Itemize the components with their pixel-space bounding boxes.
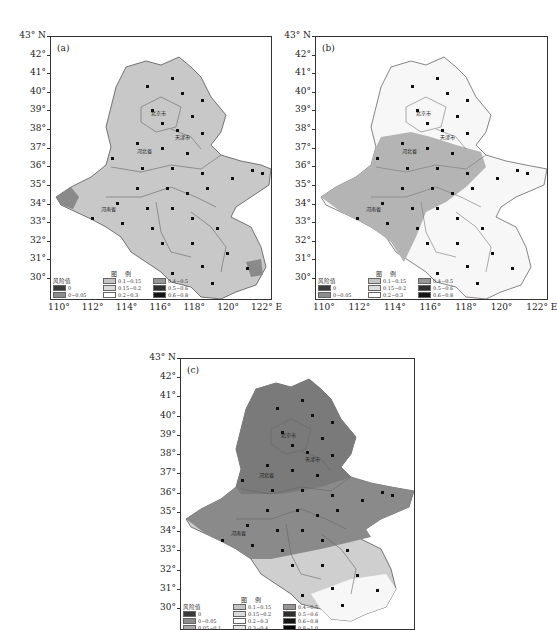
y-tick bbox=[47, 204, 51, 205]
station-marker bbox=[331, 587, 334, 590]
station-marker bbox=[511, 267, 514, 270]
legend-item: 0.3~0.4 bbox=[368, 298, 403, 300]
label-henan: 河南省 bbox=[101, 205, 116, 212]
legend-item: 0.6~0.8 bbox=[153, 291, 188, 298]
y-tick bbox=[47, 222, 51, 223]
station-marker bbox=[281, 549, 284, 552]
y-tick bbox=[177, 473, 181, 474]
legend-label: 0.3~0.4 bbox=[248, 625, 268, 630]
station-marker bbox=[171, 167, 174, 170]
legend-swatch bbox=[318, 285, 331, 291]
station-marker bbox=[246, 524, 249, 527]
station-marker bbox=[466, 132, 469, 135]
station-marker bbox=[491, 252, 494, 255]
y-tick bbox=[312, 278, 316, 279]
station-marker bbox=[466, 172, 469, 175]
station-marker bbox=[356, 574, 359, 577]
station-marker bbox=[161, 242, 164, 245]
label-hebei: 河北省 bbox=[137, 147, 152, 154]
legend-label: 0.4~0.5 bbox=[433, 278, 453, 284]
y-tick-label: 39° bbox=[277, 104, 311, 114]
legend-swatch bbox=[153, 299, 166, 301]
station-marker bbox=[436, 167, 439, 170]
legend-swatch bbox=[53, 299, 66, 301]
station-marker bbox=[266, 509, 269, 512]
y-tick-label: 32° bbox=[142, 564, 176, 574]
legend-swatch bbox=[53, 285, 66, 291]
y-tick-label: 33° bbox=[12, 216, 46, 226]
y-tick bbox=[177, 416, 181, 417]
station-marker bbox=[201, 132, 204, 135]
panel-label-b: (b) bbox=[322, 43, 335, 53]
legend-item: 0 bbox=[183, 610, 201, 617]
legend-label: 0.4~0.5 bbox=[298, 604, 318, 610]
y-tick bbox=[312, 204, 316, 205]
x-tick-label: 110° bbox=[48, 302, 70, 312]
station-marker bbox=[481, 227, 484, 230]
station-marker bbox=[331, 494, 334, 497]
station-marker bbox=[171, 272, 174, 275]
station-marker bbox=[271, 489, 274, 492]
station-marker bbox=[496, 177, 499, 180]
legend-label: 0.6~0.8 bbox=[433, 292, 453, 298]
station-marker bbox=[251, 169, 254, 172]
legend-swatch bbox=[183, 625, 196, 630]
station-marker bbox=[186, 152, 189, 155]
label-tianjin: 天津市 bbox=[440, 133, 455, 140]
station-marker bbox=[436, 207, 439, 210]
y-tick bbox=[177, 358, 181, 359]
legend-label: 0.8~1.0 bbox=[168, 299, 188, 301]
station-marker bbox=[291, 469, 294, 472]
station-marker bbox=[436, 77, 439, 80]
y-tick-label: 36° bbox=[142, 487, 176, 497]
legend-swatch bbox=[183, 618, 196, 624]
station-marker bbox=[456, 217, 459, 220]
map-frame-a: (a) 北京市 天津市 河北省 河南省 图 例风险值00~0.050.05~0.… bbox=[50, 36, 272, 300]
y-tick bbox=[312, 73, 316, 74]
y-tick-label: 40° bbox=[277, 86, 311, 96]
y-tick-label: 31° bbox=[12, 253, 46, 263]
station-marker bbox=[276, 529, 279, 532]
station-marker bbox=[401, 142, 404, 145]
y-tick bbox=[47, 110, 51, 111]
legend-label: 0.1~0.15 bbox=[118, 278, 141, 284]
y-tick-label: 37° bbox=[142, 467, 176, 477]
station-marker bbox=[411, 85, 414, 88]
y-tick-label: 38° bbox=[12, 123, 46, 133]
legend-item: 0.3~0.4 bbox=[103, 298, 138, 300]
legend-swatch bbox=[368, 292, 381, 298]
station-marker bbox=[341, 604, 344, 607]
legend-item: 0.15~0.2 bbox=[368, 284, 406, 291]
station-marker bbox=[266, 464, 269, 467]
station-marker bbox=[416, 227, 419, 230]
legend-item: 0.4~0.5 bbox=[283, 603, 318, 610]
map-panel-c: (c) 北京市 天津市 河北省 河南省 图 例风险值00~0.050.05~0.… bbox=[133, 318, 413, 626]
map-frame-c: (c) 北京市 天津市 河北省 河南省 图 例风险值00~0.050.05~0.… bbox=[180, 358, 415, 630]
y-tick bbox=[312, 259, 316, 260]
legend-swatch bbox=[53, 292, 66, 298]
x-tick-label: 116° bbox=[420, 302, 442, 312]
station-marker bbox=[301, 594, 304, 597]
legend-swatch bbox=[283, 611, 296, 617]
y-tick bbox=[177, 435, 181, 436]
legend-label: 0.2~0.3 bbox=[248, 618, 268, 624]
station-marker bbox=[516, 169, 519, 172]
station-marker bbox=[316, 474, 319, 477]
station-marker bbox=[426, 122, 429, 125]
station-marker bbox=[356, 217, 359, 220]
y-tick-label: 37° bbox=[277, 142, 311, 152]
station-marker bbox=[116, 202, 119, 205]
y-tick-label: 32° bbox=[12, 235, 46, 245]
legend-swatch bbox=[418, 292, 431, 298]
station-marker bbox=[466, 265, 469, 268]
y-tick bbox=[177, 531, 181, 532]
station-marker bbox=[226, 252, 229, 255]
station-marker bbox=[291, 444, 294, 447]
region-map-a bbox=[51, 37, 271, 299]
x-tick-label: 116° bbox=[150, 302, 172, 312]
legend-swatch bbox=[368, 285, 381, 291]
station-marker bbox=[316, 514, 319, 517]
legend-item: 0~0.05 bbox=[53, 291, 87, 298]
legend-label: 0.05~0.1 bbox=[333, 299, 356, 301]
station-marker bbox=[201, 99, 204, 102]
